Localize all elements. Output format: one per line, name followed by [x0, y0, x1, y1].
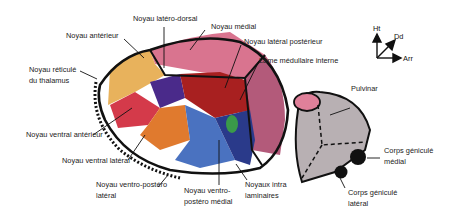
corps-genicule-medial	[350, 149, 366, 165]
label-noyau-vpm-1: Noyau ventro-	[184, 186, 230, 196]
label-cgm-2: médial	[384, 157, 406, 167]
label-noyau-lateral-posterieur: Noyau latéral postérieur	[244, 37, 322, 47]
axis-label-right: Arr	[403, 54, 413, 63]
label-noyau-vpl-2: latéral	[96, 191, 116, 201]
label-noyau-vpm-2: postéro médial	[184, 197, 232, 207]
label-noyau-anterieur: Noyau antérieur	[66, 31, 119, 41]
axis-label-diagonal: Dd	[394, 32, 403, 41]
region-noyaux-intralaminaires	[226, 115, 238, 133]
label-noyaux-intra-2: laminaires	[245, 191, 279, 201]
label-noyau-ventral-lateral: Noyau ventral latéral	[62, 156, 130, 166]
label-noyau-reticule-2: du thalamus	[29, 76, 69, 86]
pulvinar-cap	[294, 93, 320, 111]
label-noyaux-intra-1: Noyaux intra	[245, 180, 287, 190]
label-noyau-latero-dorsal: Noyau latéro-dorsal	[133, 14, 198, 24]
corps-genicule-lateral	[335, 166, 348, 179]
label-lame-medullaire-interne: Lame médullaire interne	[259, 56, 338, 66]
label-noyau-reticule-1: Noyau réticulé	[29, 65, 76, 75]
label-cgl-1: Corps géniculé	[348, 188, 397, 198]
label-noyau-vpl-1: Noyau ventro-postéro	[96, 180, 167, 190]
axis-label-up: Ht	[373, 24, 380, 33]
label-noyau-ventral-anterieur: Noyau ventral antérieur	[26, 130, 103, 140]
pulvinar-group	[294, 92, 370, 182]
label-pulvinar: Pulvinar	[351, 84, 378, 94]
label-cgl-2: latéral	[348, 199, 368, 209]
label-cgm-1: Corps géniculé	[384, 146, 433, 156]
label-noyau-medial: Noyau médial	[211, 22, 256, 32]
